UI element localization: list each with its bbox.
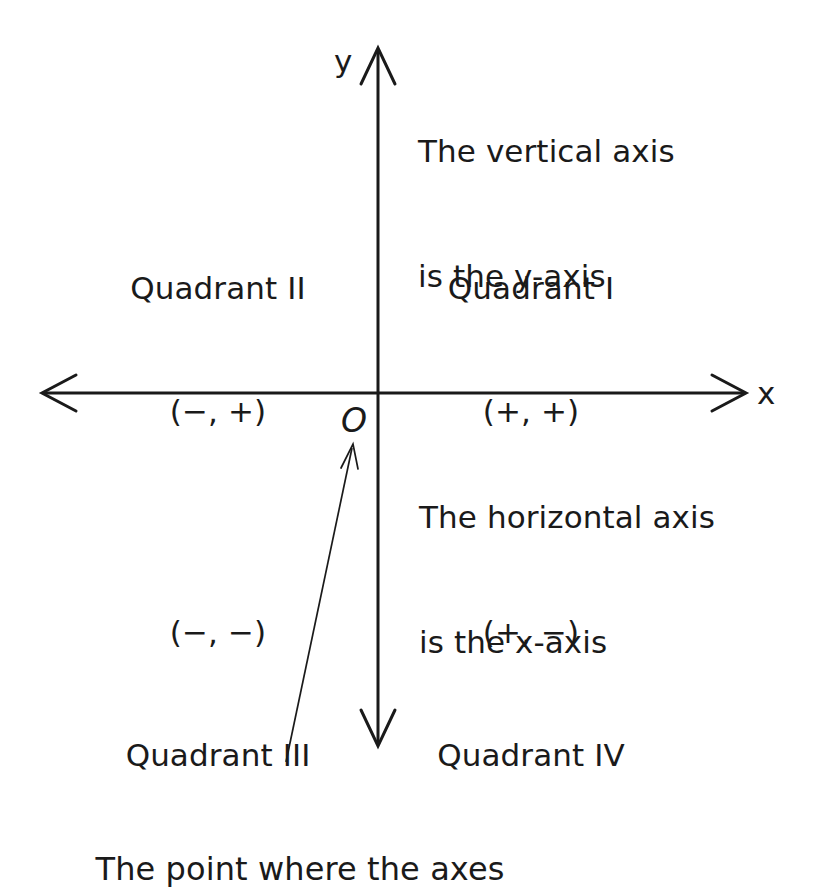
origin-caption: The point where the axes intersect is th… (40, 761, 560, 894)
quadrant-2-signs: (−, +) (88, 391, 348, 432)
quadrant-2-label: Quadrant II (−, +) (88, 186, 348, 513)
quadrant-4-signs: (+, −) (406, 612, 656, 653)
quadrant-1-label: Quadrant I (+, +) (406, 186, 656, 513)
origin-caption-line1: The point where the axes (40, 848, 560, 892)
quadrant-1-name: Quadrant I (406, 268, 656, 309)
y-axis-label: y (334, 46, 352, 77)
coordinate-plane-diagram: y x O The vertical axis is the y-axis Th… (0, 0, 814, 894)
x-axis-label: x (757, 378, 775, 409)
quadrant-2-name: Quadrant II (88, 268, 348, 309)
quadrant-3-signs: (−, −) (88, 612, 348, 653)
vertical-axis-note-line1: The vertical axis (418, 131, 778, 173)
quadrant-1-signs: (+, +) (406, 391, 656, 432)
